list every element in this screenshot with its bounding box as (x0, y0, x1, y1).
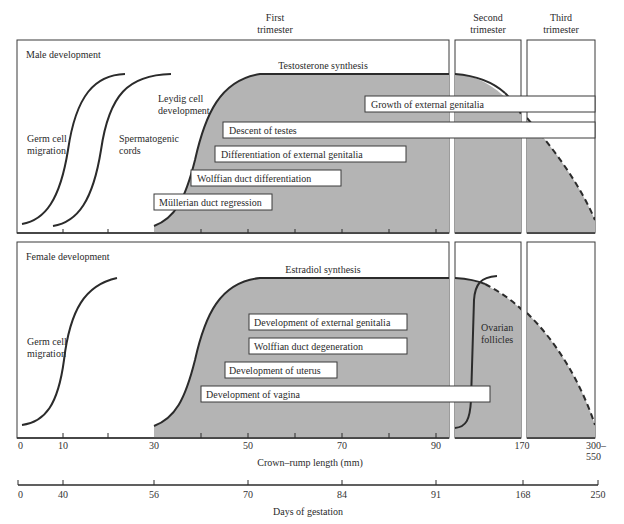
svg-text:Development of vagina: Development of vagina (206, 389, 300, 400)
second-trimester-label-2: trimester (470, 24, 506, 35)
days-tick-40: 40 (58, 489, 68, 500)
leydig-label-2: development (158, 105, 210, 116)
male-panel-title: Male development (26, 49, 101, 60)
leydig-label-1: Leydig cell (158, 93, 203, 104)
svg-text:Descent of testes: Descent of testes (229, 125, 297, 136)
trimester-labels: First trimester Second trimester Third t… (257, 12, 579, 35)
estradiol-label: Estradiol synthesis (285, 264, 360, 275)
first-trimester-label-2: trimester (257, 24, 293, 35)
crl-tick-70: 70 (337, 440, 347, 451)
days-tick-70: 70 (243, 489, 253, 500)
second-trimester-label-1: Second (473, 12, 502, 23)
days-tick-168: 168 (516, 489, 531, 500)
female-bar-1: Wolffian duct degeneration (249, 338, 407, 354)
svg-text:Wolffian duct differentiation: Wolffian duct differentiation (197, 173, 311, 184)
male-germ-cell-label-1: Germ cell (27, 133, 67, 144)
svg-text:Differentiation of external ge: Differentiation of external genitalia (221, 149, 363, 160)
crl-tick-170: 170 (515, 440, 530, 451)
male-bar-0: Growth of external genitalia (365, 96, 595, 112)
male-bar-2: Differentiation of external genitalia (215, 146, 406, 162)
crl-axis: 0 10 30 50 70 90 170 300– 550 Crown–rump… (18, 440, 607, 469)
svg-text:Wolffian duct degeneration: Wolffian duct degeneration (254, 341, 363, 352)
days-axis-title: Days of gestation (273, 506, 343, 517)
male-bar-1: Descent of testes (223, 122, 595, 138)
female-panel: Germ cell migration Ovarian follicles Fe… (17, 242, 595, 438)
days-tick-0: 0 (18, 489, 23, 500)
days-tick-56: 56 (149, 489, 159, 500)
spermatogenic-label-1: Spermatogenic (119, 133, 180, 144)
sexual-differentiation-diagram: First trimester Second trimester Third t… (0, 0, 624, 524)
svg-text:Growth of external genitalia: Growth of external genitalia (371, 99, 485, 110)
svg-text:Development of uterus: Development of uterus (229, 365, 321, 376)
female-bar-2: Development of uterus (225, 362, 337, 378)
first-trimester-label-1: First (266, 12, 285, 23)
male-panel: Germ cell migration Spermatogenic cords … (17, 40, 595, 233)
male-germ-cell-label-2: migration (27, 145, 66, 156)
days-axis: 0 40 56 70 84 91 168 250 Days of gestati… (18, 480, 606, 517)
female-germ-cell-label-2: migration (27, 348, 66, 359)
estradiol-area-second (455, 278, 522, 438)
crl-tick-90: 90 (431, 440, 441, 451)
crl-axis-title: Crown–rump length (mm) (257, 457, 363, 469)
svg-text:Müllerian duct regression: Müllerian duct regression (159, 197, 262, 208)
days-tick-91: 91 (431, 489, 441, 500)
ovarian-label-2: follicles (481, 334, 513, 345)
days-tick-250: 250 (591, 489, 606, 500)
crl-tick-300: 300– (586, 440, 607, 451)
third-trimester-label-1: Third (550, 12, 572, 23)
female-panel-title: Female development (26, 251, 110, 262)
crl-tick-0: 0 (18, 440, 23, 451)
ovarian-label-1: Ovarian (481, 322, 513, 333)
female-germ-cell-label-1: Germ cell (27, 336, 67, 347)
crl-tick-550: 550 (586, 451, 601, 462)
male-bar-3: Wolffian duct differentiation (191, 170, 341, 186)
spermatogenic-label-2: cords (119, 145, 141, 156)
testosterone-label: Testosterone synthesis (278, 60, 368, 71)
svg-text:Development of external genita: Development of external genitalia (254, 317, 391, 328)
crl-tick-30: 30 (149, 440, 159, 451)
female-bar-0: Development of external genitalia (249, 314, 407, 330)
crl-tick-50: 50 (243, 440, 253, 451)
female-bar-3: Development of vagina (201, 386, 490, 402)
male-bar-4: Müllerian duct regression (154, 194, 272, 210)
third-trimester-label-2: trimester (543, 24, 579, 35)
crl-tick-10: 10 (58, 440, 68, 451)
days-tick-84: 84 (337, 489, 347, 500)
